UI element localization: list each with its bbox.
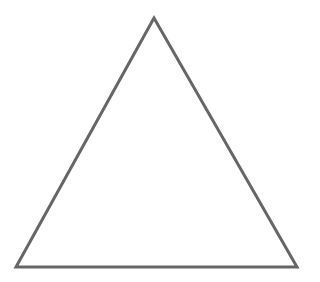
triangle-diagram — [0, 0, 320, 282]
triangle-shape — [16, 18, 297, 267]
canvas — [0, 0, 320, 282]
